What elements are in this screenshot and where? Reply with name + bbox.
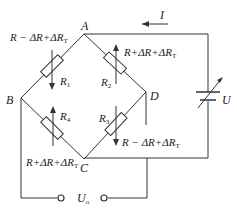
output-terminal-left [58,195,64,201]
circuit-svg: A B C D I U Uo R1 R2 R3 R4 R − ΔR+ΔRT R+… [0,0,237,214]
output-voltage-label: Uo [77,191,90,206]
r3-value: R − ΔR+ΔRT [121,136,180,150]
r1-value: R − ΔR+ΔRT [9,31,68,45]
r2-value: R+ΔR+ΔRT [123,46,177,60]
node-b-label: B [6,93,14,107]
r1-name: R1 [59,75,71,89]
node-d-label: D [149,89,159,103]
r3-name: R3 [98,112,110,126]
wire-output-right [108,158,147,198]
current-label: I [159,8,165,22]
node-c-label: C [80,161,89,175]
r4-value: R+ΔR+ΔRT [25,156,79,170]
node-a-label: A [80,19,89,33]
source-label: U [222,93,232,107]
bridge-circuit-diagram: A B C D I U Uo R1 R2 R3 R4 R − ΔR+ΔRT R+… [0,0,237,214]
current-arrow-icon [142,21,168,27]
output-terminal-right [101,195,107,201]
r2-name: R2 [100,76,112,90]
variable-source-icon [196,77,223,108]
r4-name: R4 [59,110,71,124]
